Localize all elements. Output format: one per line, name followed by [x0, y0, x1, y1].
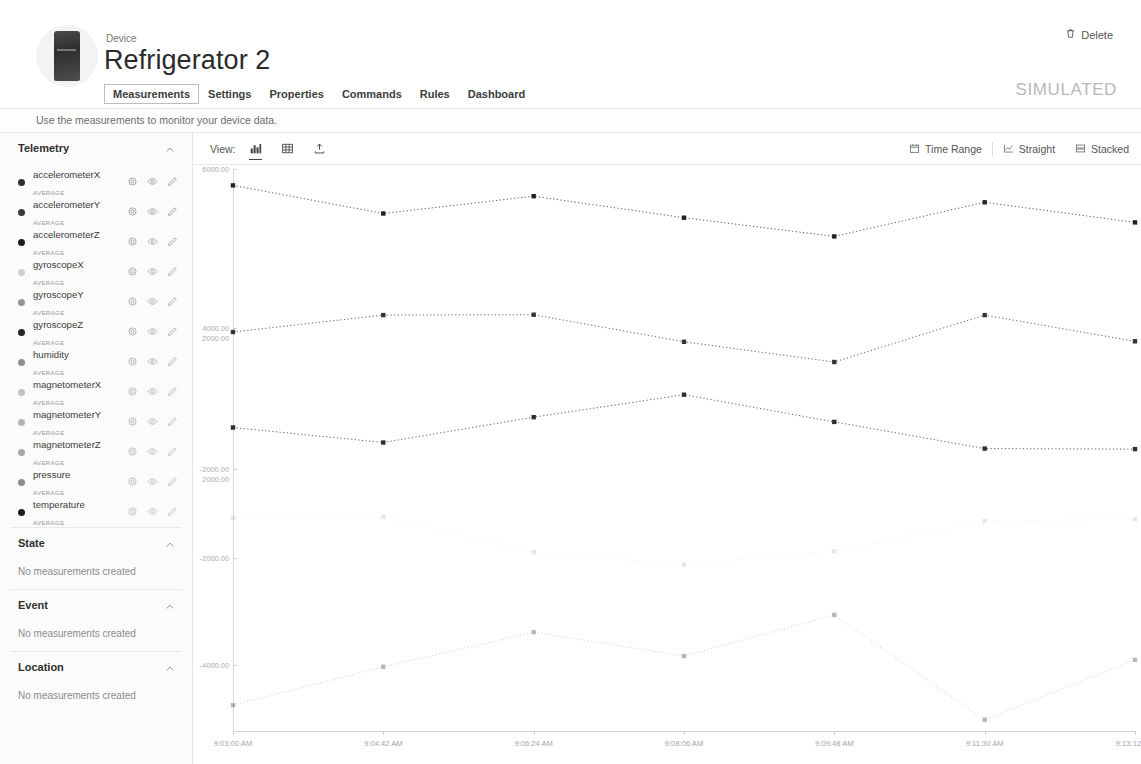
measurement-row[interactable]: temperatureAVERAGE [0, 497, 192, 527]
eye-icon[interactable] [147, 203, 158, 221]
eye-icon[interactable] [147, 443, 158, 461]
eye-icon[interactable] [147, 413, 158, 431]
gear-icon[interactable] [127, 443, 138, 461]
time-range-button[interactable]: Time Range [899, 143, 992, 156]
pencil-icon[interactable] [167, 173, 178, 191]
eye-icon[interactable] [147, 233, 158, 251]
data-point-marker[interactable] [231, 183, 235, 187]
gear-icon[interactable] [127, 383, 138, 401]
stacked-button[interactable]: Stacked [1065, 143, 1139, 156]
measurement-row[interactable]: accelerometerYAVERAGE [0, 197, 192, 227]
eye-icon[interactable] [147, 383, 158, 401]
pencil-icon[interactable] [167, 353, 178, 371]
series-color-dot[interactable] [18, 269, 25, 276]
series-color-dot[interactable] [18, 419, 25, 426]
tab-measurements[interactable]: Measurements [104, 84, 199, 104]
bar-chart-icon[interactable] [248, 141, 263, 156]
series-color-dot[interactable] [18, 239, 25, 246]
series-color-dot[interactable] [18, 449, 25, 456]
data-point-marker[interactable] [231, 425, 235, 429]
measurement-row[interactable]: accelerometerXAVERAGE [0, 167, 192, 197]
data-point-marker[interactable] [983, 446, 987, 450]
measurement-row[interactable]: pressureAVERAGE [0, 467, 192, 497]
gear-icon[interactable] [127, 353, 138, 371]
gear-icon[interactable] [127, 413, 138, 431]
data-point-marker[interactable] [832, 613, 836, 617]
pencil-icon[interactable] [167, 473, 178, 491]
pencil-icon[interactable] [167, 443, 178, 461]
data-point-marker[interactable] [381, 665, 385, 669]
series-color-dot[interactable] [18, 329, 25, 336]
data-point-marker[interactable] [231, 516, 235, 520]
eye-icon[interactable] [147, 473, 158, 491]
eye-icon[interactable] [147, 263, 158, 281]
export-icon[interactable] [312, 141, 327, 156]
data-point-marker[interactable] [682, 654, 686, 658]
series-color-dot[interactable] [18, 209, 25, 216]
data-point-marker[interactable] [231, 330, 235, 334]
pencil-icon[interactable] [167, 203, 178, 221]
series-color-dot[interactable] [18, 299, 25, 306]
measurement-row[interactable]: accelerometerZAVERAGE [0, 227, 192, 257]
table-icon[interactable] [280, 141, 295, 156]
data-point-marker[interactable] [682, 563, 686, 567]
delete-button[interactable]: Delete [1065, 28, 1113, 41]
section-header-location[interactable]: Location [0, 652, 192, 682]
pencil-icon[interactable] [167, 233, 178, 251]
gear-icon[interactable] [127, 233, 138, 251]
data-point-marker[interactable] [682, 216, 686, 220]
measurement-row[interactable]: gyroscopeXAVERAGE [0, 257, 192, 287]
series-color-dot[interactable] [18, 479, 25, 486]
pencil-icon[interactable] [167, 383, 178, 401]
gear-icon[interactable] [127, 263, 138, 281]
section-header-state[interactable]: State [0, 528, 192, 558]
tab-dashboard[interactable]: Dashboard [459, 84, 534, 104]
data-point-marker[interactable] [682, 393, 686, 397]
data-point-marker[interactable] [532, 194, 536, 198]
data-point-marker[interactable] [231, 703, 235, 707]
measurement-row[interactable]: magnetometerZAVERAGE [0, 437, 192, 467]
measurement-row[interactable]: magnetometerXAVERAGE [0, 377, 192, 407]
eye-icon[interactable] [147, 323, 158, 341]
gear-icon[interactable] [127, 173, 138, 191]
data-point-marker[interactable] [1133, 447, 1137, 451]
measurement-row[interactable]: humidityAVERAGE [0, 347, 192, 377]
measurement-row[interactable]: gyroscopeZAVERAGE [0, 317, 192, 347]
section-header-event[interactable]: Event [0, 590, 192, 620]
pencil-icon[interactable] [167, 413, 178, 431]
pencil-icon[interactable] [167, 323, 178, 341]
data-point-marker[interactable] [832, 234, 836, 238]
tab-commands[interactable]: Commands [333, 84, 411, 104]
data-point-marker[interactable] [1133, 339, 1137, 343]
series-color-dot[interactable] [18, 179, 25, 186]
data-point-marker[interactable] [983, 313, 987, 317]
gear-icon[interactable] [127, 323, 138, 341]
data-point-marker[interactable] [682, 340, 686, 344]
gear-icon[interactable] [127, 503, 138, 521]
data-point-marker[interactable] [832, 360, 836, 364]
series-color-dot[interactable] [18, 359, 25, 366]
data-point-marker[interactable] [983, 718, 987, 722]
chevron-up-icon[interactable] [164, 599, 176, 611]
data-point-marker[interactable] [1133, 517, 1137, 521]
chevron-up-icon[interactable] [164, 142, 176, 154]
data-point-marker[interactable] [381, 440, 385, 444]
gear-icon[interactable] [127, 293, 138, 311]
data-point-marker[interactable] [532, 313, 536, 317]
data-point-marker[interactable] [532, 415, 536, 419]
data-point-marker[interactable] [381, 515, 385, 519]
pencil-icon[interactable] [167, 263, 178, 281]
measurement-row[interactable]: gyroscopeYAVERAGE [0, 287, 192, 317]
telemetry-line-chart[interactable]: 6000.004000.002000.00-2000.002000.00-200… [193, 165, 1141, 763]
gear-icon[interactable] [127, 203, 138, 221]
chevron-up-icon[interactable] [164, 537, 176, 549]
data-point-marker[interactable] [381, 313, 385, 317]
gear-icon[interactable] [127, 473, 138, 491]
eye-icon[interactable] [147, 173, 158, 191]
data-point-marker[interactable] [532, 550, 536, 554]
eye-icon[interactable] [147, 353, 158, 371]
tab-properties[interactable]: Properties [260, 84, 332, 104]
pencil-icon[interactable] [167, 293, 178, 311]
tab-settings[interactable]: Settings [199, 84, 260, 104]
pencil-icon[interactable] [167, 503, 178, 521]
